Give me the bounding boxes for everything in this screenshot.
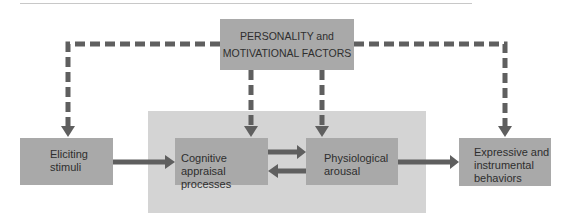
expressive-line3: behaviors: [474, 172, 551, 185]
eliciting-line2: stimuli: [50, 161, 113, 174]
physiological-line2: arousal: [324, 165, 398, 178]
expressive-line1: Expressive and: [474, 146, 551, 159]
arrowhead-physiological: [315, 126, 329, 137]
top-box-line1: PERSONALITY and: [220, 28, 354, 45]
arrowhead-eliciting: [61, 126, 75, 137]
expressive-behaviors-box: Expressive and instrumental behaviors: [459, 138, 551, 186]
eliciting-stimuli-box: Eliciting stimuli: [20, 138, 113, 185]
physiological-arousal-box: Physiological arousal: [306, 138, 398, 185]
dashed-arrow-to-expressive: [354, 44, 505, 126]
cognitive-line1: Cognitive appraisal: [181, 152, 268, 178]
eliciting-line1: Eliciting: [50, 148, 113, 161]
personality-motivational-factors-box: PERSONALITY and MOTIVATIONAL FACTORS: [220, 19, 354, 70]
expressive-line2: instrumental: [474, 159, 551, 172]
top-box-line2: MOTIVATIONAL FACTORS: [220, 45, 354, 62]
arrowhead-expressive: [498, 126, 512, 137]
cognitive-appraisal-box: Cognitive appraisal processes: [175, 138, 268, 185]
arrowhead-cognitive: [244, 126, 258, 137]
dashed-arrow-to-eliciting: [68, 44, 220, 126]
physiological-line1: Physiological: [324, 152, 398, 165]
cognitive-line2: processes: [181, 178, 268, 191]
